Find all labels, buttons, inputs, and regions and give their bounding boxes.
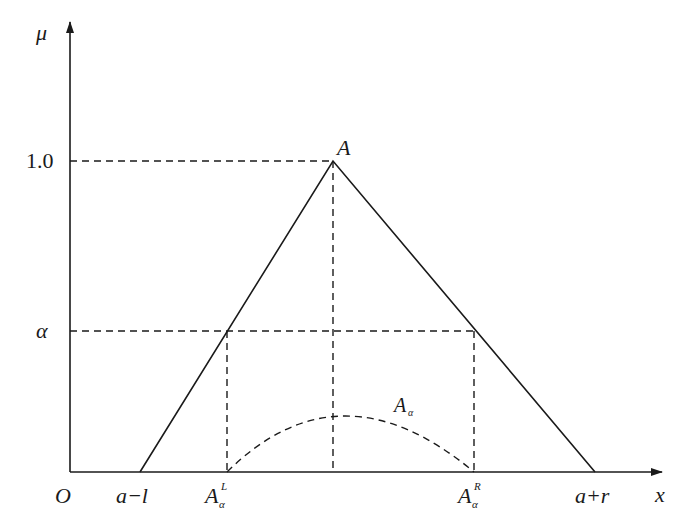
origin-label: O	[55, 483, 71, 508]
right-cut-sub: α	[472, 498, 478, 510]
y-axis-label: μ	[35, 20, 47, 45]
tick-label-left-cut: A L α	[203, 480, 227, 510]
fuzzy-number-diagram: μ x O 1.0 α A a−l a+r A L α A R α A α	[0, 0, 684, 532]
tick-label-a-minus-l: a−l	[116, 483, 148, 508]
tick-label-one: 1.0	[26, 148, 54, 173]
right-cut-base: A	[456, 483, 472, 508]
curve-label-base: A	[392, 394, 407, 416]
membership-triangle	[140, 161, 595, 472]
right-cut-sup: R	[473, 480, 481, 492]
left-cut-sup: L	[220, 480, 227, 492]
alpha-curve	[227, 416, 474, 472]
tick-label-right-cut: A R α	[456, 480, 481, 510]
dashed-guides	[70, 161, 474, 472]
left-cut-sub: α	[219, 498, 225, 510]
x-axis-label: x	[654, 482, 665, 507]
curve-label-sub: α	[408, 407, 414, 418]
left-cut-base: A	[203, 483, 219, 508]
tick-label-a-plus-r: a+r	[575, 483, 610, 508]
curve-label: A α	[392, 394, 414, 418]
tick-label-alpha: α	[36, 318, 48, 343]
peak-label: A	[335, 135, 351, 160]
